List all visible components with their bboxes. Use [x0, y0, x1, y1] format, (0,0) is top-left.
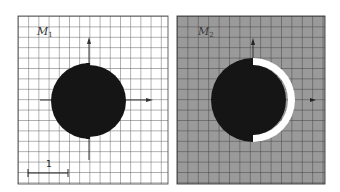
figure: M1 1 M2	[0, 0, 340, 192]
scale-bar-label: 1	[46, 159, 52, 169]
panel-m2: M2	[177, 16, 325, 184]
panel-m1: M1 1	[18, 16, 168, 184]
